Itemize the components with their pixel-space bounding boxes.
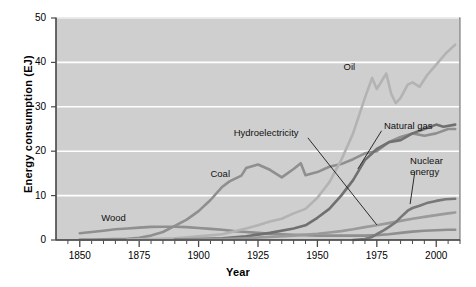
- series-label-hydroelectricity: Hydroelectricity: [234, 127, 299, 138]
- y-axis-title: Energy consumption (EJ): [22, 44, 34, 204]
- y-tick-label: 10: [22, 190, 46, 201]
- x-tick-label: 2000: [416, 250, 456, 261]
- x-axis-major-ticks: [80, 240, 436, 247]
- y-tick-label: 50: [22, 12, 46, 23]
- x-tick-label: 1925: [238, 250, 278, 261]
- y-axis-ticks: [51, 18, 56, 240]
- nuclear-label-line-2: energy: [410, 166, 439, 177]
- series-label-coal: Coal: [210, 168, 230, 179]
- y-tick-label: 0: [22, 234, 46, 245]
- series-label-oil: Oil: [344, 61, 356, 72]
- series-label-natural-gas: Natural gas: [384, 120, 433, 131]
- x-tick-label: 1950: [297, 250, 337, 261]
- x-tick-label: 1975: [357, 250, 397, 261]
- series-label-wood: Wood: [101, 212, 126, 223]
- x-tick-label: 1900: [179, 250, 219, 261]
- y-tick-label: 30: [22, 101, 46, 112]
- series-label-nuclear-energy: Nuclear energy: [410, 155, 443, 177]
- y-tick-label: 20: [22, 145, 46, 156]
- x-axis-title: Year: [188, 266, 288, 278]
- x-tick-label: 1875: [119, 250, 159, 261]
- y-tick-label: 40: [22, 56, 46, 67]
- x-tick-label: 1850: [60, 250, 100, 261]
- chart-canvas: [0, 0, 476, 287]
- nuclear-label-line-1: Nuclear: [410, 155, 443, 166]
- chart-figure: Energy consumption (EJ) Year 01020304050…: [0, 0, 476, 287]
